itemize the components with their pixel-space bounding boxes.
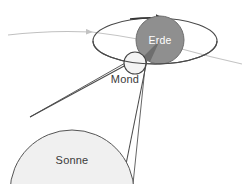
earth-label: Erde	[149, 34, 172, 46]
shadow-cone-tangent-upper-b	[30, 56, 138, 117]
moon-label: Mond	[111, 73, 139, 85]
eclipse-diagram: Erde Sonne Mond	[0, 0, 248, 184]
earth-orbit-path-left	[8, 31, 92, 35]
sun-body: Sonne	[10, 130, 134, 184]
diagram-canvas: Erde Sonne Mond	[0, 0, 248, 184]
sun-label: Sonne	[56, 154, 89, 166]
